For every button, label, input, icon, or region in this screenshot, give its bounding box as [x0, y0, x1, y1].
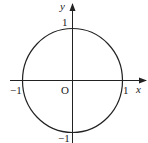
x-axis-label: x [135, 83, 141, 95]
tick-x-neg: −1 [10, 84, 22, 96]
tick-x-pos: 1 [123, 84, 129, 96]
y-axis-label: y [59, 0, 65, 12]
origin-label: O [61, 84, 69, 96]
tick-y-neg: −1 [58, 132, 70, 143]
unit-circle-diagram: y x O 1 −1 −1 1 [0, 0, 148, 143]
tick-y-pos: 1 [62, 16, 68, 28]
